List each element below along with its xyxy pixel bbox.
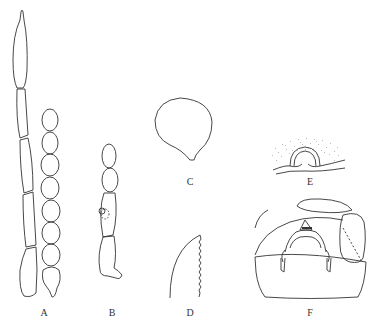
panel-a-elongate-antenna [13,10,37,297]
panel-label-b: B [109,307,116,318]
panel-f-capsule [255,199,366,299]
panel-label-d: D [186,307,193,318]
panel-label-a: A [40,307,47,318]
panel-label-c: C [187,176,194,187]
panel-b-antenna [99,144,122,279]
panel-label-e: E [307,176,313,187]
panel-c-bulb [155,98,212,160]
panel-a-moniliform-antenna [41,109,60,297]
figure-canvas [0,0,383,321]
panel-e-dome [272,138,345,174]
panel-d-serrated-blade [170,235,201,298]
stipple-area [272,138,339,161]
panel-label-f: F [307,307,313,318]
